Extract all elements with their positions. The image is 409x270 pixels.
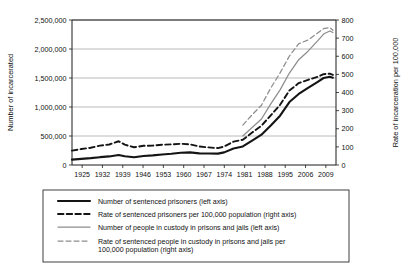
legend-label: Rate of sentenced people in custody in p…	[98, 238, 286, 246]
right-axis-tick-label: 0	[342, 161, 346, 170]
x-axis-tick-label: 2009	[318, 171, 334, 178]
series-line	[72, 74, 333, 151]
incarceration-line-chart: 0500,0001,000,0001,500,0002,000,0002,500…	[0, 0, 409, 270]
legend-label-continued: 100,000 population (right axis)	[98, 246, 193, 254]
x-axis-tick-label: 2006	[298, 171, 314, 178]
left-axis-tick-label: 2,000,000	[35, 45, 67, 54]
right-axis-tick-label: 100	[342, 143, 354, 152]
chart-canvas: 0500,0001,000,0001,500,0002,000,0002,500…	[0, 0, 409, 270]
x-axis-tick-label: 1981	[237, 171, 253, 178]
right-axis-tick-label: 200	[342, 124, 354, 133]
right-axis-tick-label: 500	[342, 70, 354, 79]
x-axis-tick-label: 1932	[95, 171, 111, 178]
left-axis-tick-label: 1,000,000	[35, 103, 67, 112]
x-axis-tick-label: 1925	[74, 171, 90, 178]
x-axis-tick-label: 1960	[176, 171, 192, 178]
right-axis-tick-label: 800	[342, 16, 354, 25]
x-axis-tick-label: 1967	[196, 171, 212, 178]
right-axis-tick-label: 700	[342, 34, 354, 43]
left-axis-tick-label: 0	[63, 161, 67, 170]
x-axis-tick-label: 1953	[156, 171, 172, 178]
right-axis-tick-label: 600	[342, 52, 354, 61]
series-line	[243, 31, 333, 136]
left-axis-title: Number of incarcerated	[6, 54, 15, 131]
left-axis-tick-label: 500,000	[41, 132, 67, 141]
left-axis-tick-label: 1,500,000	[35, 74, 67, 83]
x-axis-tick-label: 1974	[217, 171, 233, 178]
legend-label: Rate of sentenced prisoners per 100,000 …	[98, 211, 296, 219]
x-axis-tick-label: 1939	[115, 171, 131, 178]
right-axis-tick-label: 300	[342, 106, 354, 115]
x-axis-tick-label: 1988	[257, 171, 273, 178]
right-axis-tick-label: 400	[342, 88, 354, 97]
x-axis-tick-label: 1946	[135, 171, 151, 178]
x-axis-tick-label: 1995	[277, 171, 293, 178]
left-axis-tick-label: 2,500,000	[35, 16, 67, 25]
right-axis-title: Rate of incarceration per 100,000	[391, 38, 400, 148]
legend-label: Number of sentenced prisoners (left axis…	[98, 198, 228, 206]
legend-label: Number of people in custody in prisons a…	[98, 224, 279, 232]
